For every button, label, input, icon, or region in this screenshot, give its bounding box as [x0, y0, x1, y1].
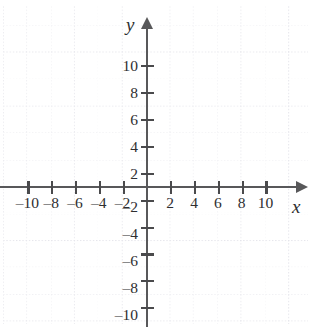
x-axis-line	[0, 186, 300, 188]
y-tick-mark	[141, 119, 154, 121]
y-tick-mark	[141, 280, 154, 282]
y-tick-label: –2	[88, 199, 138, 215]
y-tick-label: 10	[88, 58, 138, 74]
y-tick-label: 2	[88, 166, 138, 182]
x-tick-label: 4	[182, 195, 206, 211]
y-tick-label: 4	[88, 139, 138, 155]
x-tick-mark	[170, 181, 172, 194]
y-tick-label: –8	[88, 280, 138, 296]
x-tick-mark	[265, 181, 267, 194]
y-axis-arrow-icon	[141, 17, 153, 29]
x-tick-mark	[51, 181, 53, 194]
x-tick-mark	[194, 181, 196, 194]
y-tick-label: 8	[88, 85, 138, 101]
y-tick-label: –6	[88, 253, 138, 269]
x-tick-label: 10	[251, 195, 279, 211]
grid-lines	[0, 0, 312, 327]
x-tick-mark	[27, 181, 29, 194]
x-tick-label: 2	[158, 195, 182, 211]
x-tick-label: 6	[206, 195, 230, 211]
y-tick-label: –4	[88, 226, 138, 242]
x-tick-mark	[242, 181, 244, 194]
y-tick-mark	[141, 173, 154, 175]
y-tick-mark	[141, 307, 154, 309]
x-tick-label: 8	[230, 195, 254, 211]
y-tick-label: 6	[88, 112, 138, 128]
x-axis-label: x	[292, 196, 300, 218]
x-axis-arrow-icon	[296, 181, 308, 193]
x-tick-mark	[218, 181, 220, 194]
y-tick-mark	[141, 92, 154, 94]
x-tick-mark	[123, 181, 125, 194]
coordinate-plane-figure: –10 –8 –6 –4 –2 2 4 6 8 10 10 8 6 4 2 –2…	[0, 0, 312, 327]
y-tick-label: –10	[88, 307, 138, 323]
y-axis-label: y	[126, 14, 134, 36]
x-tick-mark	[99, 181, 101, 194]
y-tick-mark	[141, 200, 154, 202]
y-tick-mark	[141, 65, 154, 67]
y-tick-mark	[141, 146, 154, 148]
x-tick-mark	[75, 181, 77, 194]
y-tick-mark	[141, 227, 154, 229]
y-tick-mark	[141, 253, 154, 255]
